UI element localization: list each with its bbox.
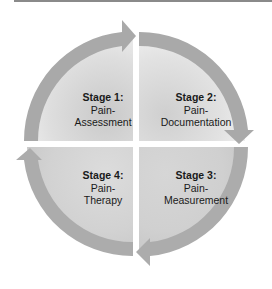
stage-1-line1: Pain- [53,104,153,117]
stage-3-title: Stage 3: [146,169,246,182]
stage-3-line2: Measurement [146,194,246,207]
stage-1-label: Stage 1: Pain- Assessment [53,91,153,129]
stage-4-line2: Therapy [53,194,153,207]
stage-2-line2: Documentation [146,116,246,129]
stage-2-line1: Pain- [146,104,246,117]
stage-4-title: Stage 4: [53,169,153,182]
stage-4-label: Stage 4: Pain- Therapy [53,169,153,207]
stage-2-title: Stage 2: [146,91,246,104]
stage-3-line1: Pain- [146,182,246,195]
stage-1-title: Stage 1: [53,91,153,104]
cycle-diagram [0,0,272,289]
stage-2-label: Stage 2: Pain- Documentation [146,91,246,129]
stage-3-segment [136,147,248,266]
stage-3-label: Stage 3: Pain- Measurement [146,169,246,207]
stage-4-line1: Pain- [53,182,153,195]
stage-1-line2: Assessment [53,116,153,129]
